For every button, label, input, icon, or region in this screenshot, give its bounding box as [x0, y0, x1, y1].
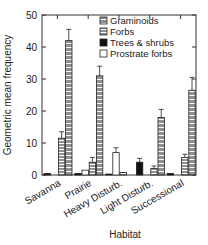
bar	[66, 41, 72, 175]
legend: GraminoidsForbsTrees & shrubsProstrate f…	[100, 15, 174, 59]
y-tick-label: 10	[26, 138, 38, 149]
x-tick-label: Savanna	[23, 177, 63, 206]
bar	[58, 138, 64, 175]
legend-swatch	[100, 39, 107, 46]
y-tick-label: 40	[26, 42, 38, 53]
y-tick-label: 50	[26, 10, 38, 21]
bar	[167, 173, 173, 175]
x-axis-title: Habitat	[109, 229, 141, 240]
bar	[189, 90, 195, 175]
y-tick-label: 30	[26, 74, 38, 85]
legend-label: Forbs	[110, 26, 135, 37]
chart: 01020304050SavannaPrairieHeavy Disturb.L…	[0, 0, 208, 245]
legend-label: Graminoids	[110, 15, 159, 26]
bar	[75, 173, 81, 175]
y-axis-title: Geometric mean frequency	[2, 35, 13, 156]
bar	[96, 76, 102, 175]
bar	[106, 174, 112, 175]
legend-swatch	[100, 28, 107, 35]
bar	[113, 153, 119, 175]
legend-label: Prostrate forbs	[110, 48, 173, 59]
bar	[136, 162, 142, 175]
bar	[120, 172, 126, 175]
bar	[182, 157, 188, 175]
bar	[89, 162, 95, 175]
bar	[82, 170, 88, 175]
legend-swatch	[100, 17, 107, 24]
bar	[158, 117, 164, 175]
legend-swatch	[100, 50, 107, 57]
y-tick-label: 20	[26, 106, 38, 117]
y-tick-label: 0	[31, 170, 37, 181]
legend-label: Trees & shrubs	[110, 37, 174, 48]
bar	[151, 169, 157, 175]
bar	[44, 173, 50, 175]
